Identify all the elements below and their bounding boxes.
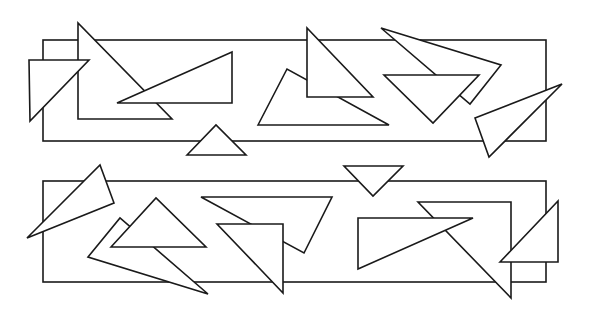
tall-right-triangle xyxy=(78,23,172,119)
tall-right-triangle-right xyxy=(418,202,511,298)
right-angle-triangle-center xyxy=(307,28,373,97)
long-flat-triangle xyxy=(117,52,232,103)
left-spike-triangle xyxy=(27,165,114,238)
geometric-figure-drawing xyxy=(0,0,589,336)
bottom-panel xyxy=(27,165,558,298)
top-panel xyxy=(29,23,562,157)
long-flat-triangle-right xyxy=(358,218,473,269)
small-upward-triangle xyxy=(187,125,246,155)
right-edge-triangle xyxy=(475,84,562,157)
diagram-canvas xyxy=(0,0,589,336)
